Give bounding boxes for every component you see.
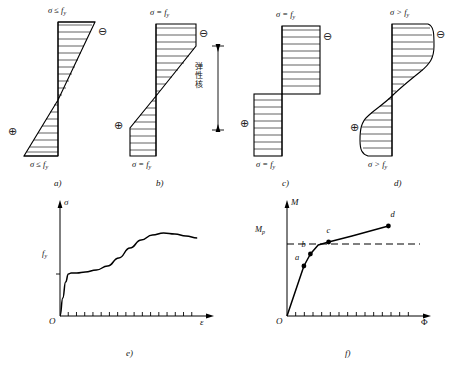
point-label-a: a [295,253,299,262]
x-axis-ticks [68,312,192,316]
panel-b-caption: b) [156,178,164,188]
panel-d-diagram [350,0,461,175]
hatch-lines-top [156,28,196,91]
chart-e-caption: e) [126,348,133,358]
plus-circle-icon: ⊕ [114,120,123,131]
panel-d-caption: d) [394,178,402,188]
elastic-core-dimension [212,44,224,132]
hatch-lines-top [282,30,320,86]
point-label-d: d [390,210,394,219]
hatch-lines-bottom [361,99,392,148]
plus-circle-icon: ⊕ [8,126,17,137]
panel-c-bottom-label: σ = fy [256,160,275,169]
stress-outline-tension [360,96,392,156]
data-points [302,224,391,269]
minus-circle-icon: ⊖ [436,29,445,40]
panel-a: σ ≤ fy σ ≤ fy ⊖ ⊕ a) [0,0,120,195]
panel-d: σ > fy σ > fy ⊖ ⊕ d) [350,0,461,195]
hatch-lines-bottom [130,101,156,150]
hatch-lines-bottom [27,105,58,152]
point-label-b: b [301,240,305,249]
panel-a-top-label: σ ≤ fy [48,6,66,15]
panel-a-caption: a) [54,178,62,188]
panel-c: σ = fy σ = fy ⊖ ⊕ c) [240,0,350,195]
chart-f-origin-label: O [276,317,283,326]
minus-circle-icon: ⊖ [98,26,107,37]
stress-outline-tension [24,100,58,156]
panel-c-diagram [240,0,350,175]
panel-d-top-label: σ > fy [390,8,409,17]
plus-circle-icon: ⊕ [240,118,249,129]
stress-outline-tension [130,96,156,156]
chart-f-xlabel: Φ [421,318,428,327]
x-axis-arrow [206,314,214,319]
elastic-core-note: 弹性核 [192,62,203,89]
chart-e-ytick-label: fy [42,249,47,258]
panel-b-diagram [120,0,240,175]
stress-block-compression [282,26,320,94]
chart-f: M Φ O Mp abcd f) [245,198,455,366]
stress-block-tension [254,94,282,156]
plus-circle-icon: ⊕ [350,122,359,133]
hatch-lines-bottom [254,100,282,149]
stress-outline-compression [58,22,95,100]
hatch-lines-top [392,28,433,91]
panel-c-caption: c) [282,178,289,188]
y-axis-arrow [58,200,63,208]
panel-a-bottom-label: σ ≤ fy [30,160,48,169]
chart-e-origin-label: O [49,317,56,326]
minus-circle-icon: ⊖ [199,28,208,39]
point-label-c: c [327,226,331,235]
panel-d-bottom-label: σ > fy [368,160,387,169]
chart-f-ytick-label: Mp [255,225,265,234]
panel-b: σ = fy σ = fy ⊖ ⊕ 弹性核 b) [120,0,240,195]
chart-f-ylabel: M [291,198,299,207]
minus-circle-icon: ⊖ [323,31,332,42]
chart-e: σ ε O fy e) [30,198,230,366]
x-axis-ticks [296,312,409,316]
panel-c-top-label: σ = fy [276,10,295,19]
hatch-lines-top [58,25,92,95]
stress-strain-curve [60,233,197,316]
y-axis-arrow [285,200,290,208]
chart-e-ylabel: σ [64,198,68,207]
chart-f-caption: f) [345,348,351,358]
panel-b-top-label: σ = fy [150,8,169,17]
chart-e-xlabel: ε [200,318,204,327]
panel-b-bottom-label: σ = fy [132,160,151,169]
